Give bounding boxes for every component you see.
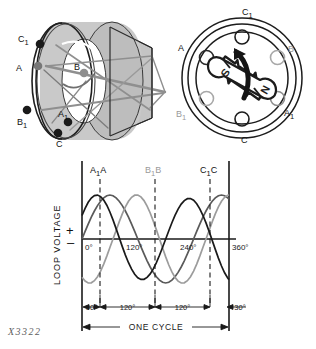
cutaway-label-C: C <box>56 140 63 149</box>
stator-bore <box>62 39 106 123</box>
endview-label-A1: A1 <box>284 109 294 120</box>
cutaway-label-B1: B1 <box>17 118 27 129</box>
terminal-dot-B1 <box>23 106 32 115</box>
cutaway-label-C-base: C <box>56 139 63 149</box>
figure-id: X3322 <box>8 326 42 337</box>
cutaway-label-C1-sub: 1 <box>25 38 29 47</box>
endview-label-A1-sub: 1 <box>290 112 294 121</box>
cutaway-label-A1-sub: 1 <box>64 113 68 122</box>
endview-label-A: A <box>178 44 184 53</box>
dimension-label-2: 120° <box>175 303 191 312</box>
endview-label-B1: B1 <box>176 110 186 121</box>
dimension-label-1: 120° <box>120 303 136 312</box>
endview-label-C-base: C <box>241 135 248 145</box>
x-tick-120: 120° <box>126 243 143 252</box>
dimension-label-0: 90° <box>86 303 97 312</box>
three-phase-waveform-chart: 0° 120° 240° 360° <box>0 155 316 349</box>
endview-label-B: B <box>288 45 294 54</box>
cutaway-label-C1: C1 <box>18 35 29 46</box>
peak-label-C1C-tail: C <box>211 165 218 175</box>
terminal-dot-C1 <box>36 40 45 49</box>
terminal-dot-C <box>54 129 63 138</box>
endview-label-C1: C1 <box>242 8 253 19</box>
endview-label-C: C <box>241 136 248 145</box>
figure-root: C1 A B A1 B1 C <box>0 0 316 349</box>
polarity-negative: – <box>67 236 74 249</box>
endview-label-A-base: A <box>178 43 184 53</box>
dimension-label-3: 30° <box>234 303 245 312</box>
endview-label-B-base: B <box>288 44 294 54</box>
cutaway-label-B1-sub: 1 <box>23 121 27 130</box>
cutaway-label-A: A <box>16 64 22 73</box>
x-tick-0: 0° <box>85 243 93 252</box>
peak-label-B1B: B1B <box>145 166 161 177</box>
cutaway-label-A1: A1 <box>58 110 68 121</box>
terminal-dot-B <box>80 69 89 78</box>
cutaway-label-A-base: A <box>16 63 22 73</box>
one-cycle-label: ONE CYCLE <box>129 322 184 332</box>
cutaway-label-B: B <box>74 63 80 72</box>
stator-cutaway-diagram <box>0 0 172 158</box>
terminal-dot-A <box>34 62 43 71</box>
peak-label-C1C: C1C <box>200 166 217 177</box>
y-axis-title: LOOP VOLTAGE <box>52 204 62 285</box>
peak-label-B1B-tail: B <box>155 165 161 175</box>
dimension-row <box>83 295 246 309</box>
endview-label-C1-sub: 1 <box>249 11 253 20</box>
peak-label-A1A: A1A <box>90 166 106 177</box>
x-tick-240: 240° <box>180 243 197 252</box>
endview-label-B1-sub: 1 <box>182 113 186 122</box>
x-tick-360: 360° <box>232 243 249 252</box>
peak-label-A1A-tail: A <box>100 165 106 175</box>
cutaway-label-B-base: B <box>74 62 80 72</box>
